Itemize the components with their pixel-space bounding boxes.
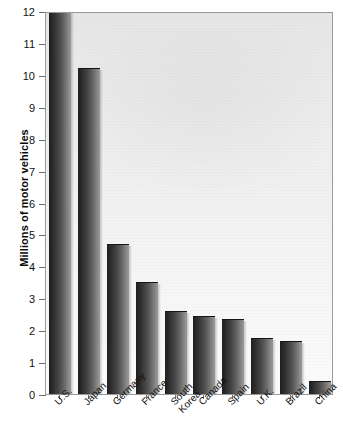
y-tick-label: 9 bbox=[0, 102, 35, 114]
y-tick-label: 12 bbox=[0, 6, 35, 18]
y-tick-label: 11 bbox=[0, 38, 35, 50]
y-tick-label: 3 bbox=[0, 293, 35, 305]
bar-chart: Millions of motor vehicles 0123456789101… bbox=[0, 0, 343, 446]
plot-area bbox=[45, 12, 333, 395]
y-tick-label: 4 bbox=[0, 261, 35, 273]
y-tick-label: 1 bbox=[0, 357, 35, 369]
y-tick-label: 5 bbox=[0, 229, 35, 241]
y-tick-label: 8 bbox=[0, 134, 35, 146]
y-tick-label: 10 bbox=[0, 70, 35, 82]
bars-layer bbox=[46, 13, 332, 394]
bar[interactable] bbox=[165, 311, 187, 394]
bar[interactable] bbox=[49, 12, 71, 394]
y-tick-label: 2 bbox=[0, 325, 35, 337]
bar[interactable] bbox=[78, 68, 100, 394]
y-tick-label: 0 bbox=[0, 389, 35, 401]
y-tick-label: 7 bbox=[0, 166, 35, 178]
bar[interactable] bbox=[107, 244, 129, 394]
bar[interactable] bbox=[251, 338, 273, 394]
y-tick-mark bbox=[39, 395, 46, 396]
y-tick-label: 6 bbox=[0, 198, 35, 210]
